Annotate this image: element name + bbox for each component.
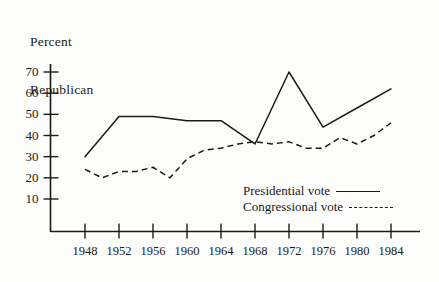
legend-label-presidential-vote: Presidential vote <box>243 183 330 199</box>
chart-plot-area <box>0 0 439 282</box>
y-axis-tick-label: 20 <box>13 171 39 184</box>
series-congressional-vote-line <box>85 123 391 178</box>
y-axis-tick-label: 60 <box>13 86 39 99</box>
y-axis-tick-label: 10 <box>13 192 39 205</box>
y-axis-tick-label: 30 <box>13 150 39 163</box>
legend-swatch-solid-line <box>336 191 380 193</box>
y-axis-tick-label: 50 <box>13 107 39 120</box>
chart-legend: Presidential vote Congressional vote <box>243 183 393 215</box>
x-axis-tick-label: 1984 <box>371 245 411 258</box>
legend-item-presidential-vote: Presidential vote <box>243 183 393 199</box>
y-axis-tick-label: 40 <box>13 129 39 142</box>
chart-figure: Percent Republican 70605040302010 194819… <box>0 0 439 282</box>
y-axis-tick-label: 70 <box>13 65 39 78</box>
legend-item-congressional-vote: Congressional vote <box>243 199 393 215</box>
legend-swatch-dashed-line <box>349 207 393 209</box>
legend-label-congressional-vote: Congressional vote <box>243 199 343 215</box>
